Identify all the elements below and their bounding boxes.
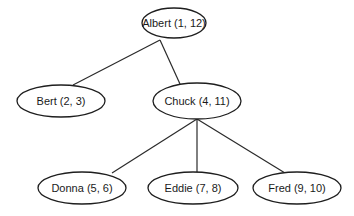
node-donna: Donna (5, 6) bbox=[38, 172, 126, 204]
node-albert: Albert (1, 12) bbox=[142, 8, 206, 38]
node-chuck: Chuck (4, 11) bbox=[153, 83, 241, 119]
node-label: Albert (1, 12) bbox=[142, 17, 206, 29]
node-bert: Bert (2, 3) bbox=[17, 85, 105, 117]
nodes-layer: Albert (1, 12)Bert (2, 3)Chuck (4, 11)Do… bbox=[17, 8, 341, 204]
edge-albert-chuck bbox=[160, 40, 180, 84]
node-label: Fred (9, 10) bbox=[268, 182, 325, 194]
node-eddie: Eddie (7, 8) bbox=[148, 172, 238, 204]
edge-albert-bert bbox=[73, 40, 160, 85]
node-label: Eddie (7, 8) bbox=[165, 182, 222, 194]
edge-chuck-donna bbox=[112, 119, 197, 173]
node-fred: Fred (9, 10) bbox=[253, 172, 341, 204]
tree-diagram: Albert (1, 12)Bert (2, 3)Chuck (4, 11)Do… bbox=[0, 0, 354, 216]
node-label: Donna (5, 6) bbox=[51, 182, 112, 194]
node-label: Chuck (4, 11) bbox=[164, 95, 229, 107]
node-label: Bert (2, 3) bbox=[37, 95, 86, 107]
edge-chuck-fred bbox=[197, 119, 285, 173]
